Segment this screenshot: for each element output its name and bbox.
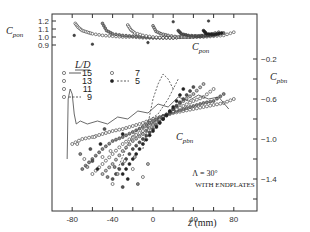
legend-marker-icon (62, 95, 65, 98)
legend: L/D 151311975 (62, 59, 140, 102)
right-tick-label: −1.4 (261, 175, 277, 184)
legend-entry: 9 (62, 92, 92, 102)
right-axis-title: Cpbn (270, 71, 288, 85)
left-axis-title: Cpon (6, 25, 24, 39)
legend-marker-icon (62, 87, 65, 90)
curve-label-cpbn: Cpbn (176, 131, 194, 145)
angle-annotation: Λ = 30° (192, 169, 217, 178)
left-axis-ticks: 1.21.11.00.9 (38, 17, 56, 50)
legend-marker-icon (62, 79, 65, 82)
legend-marker-icon (110, 71, 113, 74)
x-tick-label: -80 (66, 215, 78, 224)
legend-marker-icon (110, 79, 113, 82)
right-tick-label: −0.2 (261, 55, 277, 64)
svg-text:5: 5 (135, 76, 140, 86)
right-tick-label: −1.0 (261, 135, 277, 144)
config-annotation: WITH ENDPLATES (195, 181, 254, 189)
chart: -80-4004080 1.21.11.00.9 −0.2−0.6−1.0−1.… (0, 0, 310, 232)
curve-label-cpon: Cpon (192, 41, 210, 55)
legend-entry: 5 (110, 76, 140, 86)
legend-marker-icon (62, 71, 65, 74)
x-tick-label: 80 (229, 215, 238, 224)
left-tick-label: 0.9 (38, 41, 50, 50)
x-tick-label: 0 (151, 215, 156, 224)
svg-text:9: 9 (87, 92, 92, 102)
x-axis-title: z (mm) (187, 217, 217, 229)
right-tick-label: −0.6 (261, 95, 277, 104)
cpon-series (73, 20, 235, 46)
top-axis-ticks (72, 14, 234, 18)
x-tick-label: -40 (107, 215, 119, 224)
